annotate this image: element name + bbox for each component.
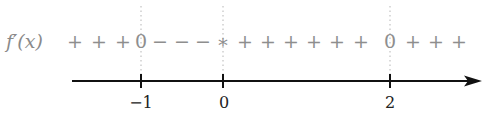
sign: − <box>195 30 211 52</box>
sign: − <box>152 30 168 52</box>
sign-chart: f′(x) + + + 0 − − − ∗ + + + + + + 0 + + … <box>0 0 490 122</box>
sign: + <box>428 30 444 52</box>
sign: + <box>353 30 369 52</box>
sign-zero: 0 <box>135 30 147 52</box>
sign: + <box>115 30 131 52</box>
sign: + <box>451 30 467 52</box>
tick-label: 0 <box>219 93 229 112</box>
sign-zero: 0 <box>384 30 396 52</box>
sign: + <box>306 30 322 52</box>
sign: + <box>67 30 83 52</box>
tick-label: −1 <box>129 93 153 112</box>
sign: + <box>329 30 345 52</box>
sign: + <box>405 30 421 52</box>
sign: + <box>260 30 276 52</box>
function-label: f′(x) <box>4 30 43 52</box>
tick-label: 2 <box>385 93 395 112</box>
sign: + <box>91 30 107 52</box>
sign: + <box>283 30 299 52</box>
sign: − <box>174 30 190 52</box>
sign-undefined: ∗ <box>217 30 230 52</box>
sign-row: + + + 0 − − − ∗ + + + + + + 0 + + + <box>67 30 467 52</box>
sign: + <box>237 30 253 52</box>
